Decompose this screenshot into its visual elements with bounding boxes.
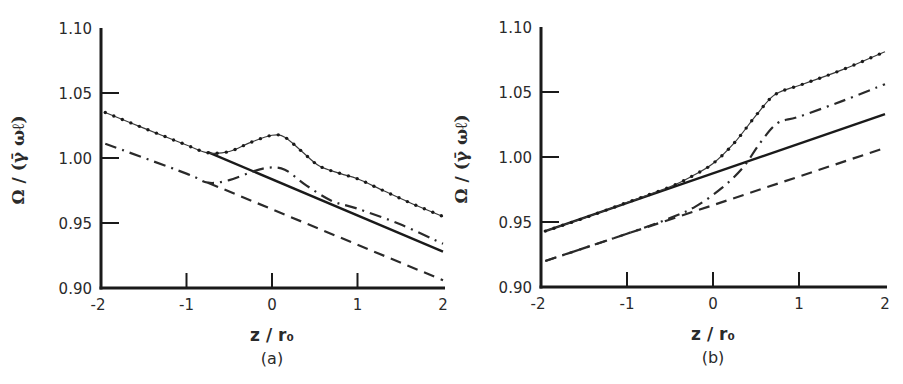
dot-marker (630, 199, 633, 202)
dot-marker (104, 111, 107, 114)
dot-marker (835, 70, 838, 73)
y-tick-label: 1.05 (499, 84, 532, 102)
y-tick-label: 1.05 (59, 85, 92, 103)
dot-marker (306, 155, 309, 158)
dot-marker (277, 133, 280, 136)
dot-marker (338, 172, 341, 175)
dot-marker (552, 227, 555, 230)
dot-marker (414, 204, 417, 207)
dot-marker (762, 105, 765, 108)
dot-marker (146, 128, 149, 131)
dot-marker (720, 154, 723, 157)
x-tick-label: -2 (91, 296, 106, 314)
dot-marker (180, 142, 183, 145)
dot-marker (138, 125, 141, 128)
dot-marker (801, 83, 804, 86)
dot-marker (768, 98, 771, 101)
dot-marker (206, 151, 209, 154)
dot-marker (665, 186, 668, 189)
dot-marker (561, 224, 564, 227)
dot-marker (613, 205, 616, 208)
dot-marker (285, 137, 288, 140)
dot-marker (596, 212, 599, 215)
x-tick-label: 1 (794, 295, 804, 313)
dot-marker (372, 184, 375, 187)
dot-marker (844, 67, 847, 70)
dot-marker (827, 73, 830, 76)
y-tick-label: 0.95 (59, 215, 92, 233)
x-tick-label: 0 (708, 295, 718, 313)
dot-marker (639, 196, 642, 199)
y-tick-label: 1.00 (59, 150, 92, 168)
dot-marker (355, 177, 358, 180)
dot-marker (389, 192, 392, 195)
dot-marker (292, 142, 295, 145)
chart-panel-b: 0.900.951.001.051.10-2-1012z / r₀(b)Ω / … (451, 0, 903, 384)
y-tick-label: 0.90 (499, 279, 532, 297)
y-axis-label: Ω / (γ̄ ωℓ) (8, 116, 28, 205)
dot-marker (155, 131, 158, 134)
dot-marker (656, 190, 659, 193)
x-tick-label: 0 (267, 296, 277, 314)
dot-marker (604, 208, 607, 211)
dot-marker (189, 145, 192, 148)
dot-marker (750, 119, 753, 122)
x-tick-label: 2 (438, 296, 448, 314)
dot-marker (121, 118, 124, 121)
x-tick-label: 2 (880, 295, 890, 313)
dot-marker (313, 161, 316, 164)
dot-marker (381, 188, 384, 191)
dot-marker (233, 148, 236, 151)
dot-marker (713, 160, 716, 163)
dot-marker (878, 52, 881, 55)
dot-marker (587, 215, 590, 218)
x-tick-label: -1 (620, 295, 635, 313)
series-dash-dot-line (105, 144, 443, 244)
dot-marker (578, 218, 581, 221)
dot-marker (129, 121, 132, 124)
series-dotted-markers (544, 52, 881, 232)
dot-marker (698, 170, 701, 173)
dot-marker (727, 148, 730, 151)
panel-caption: (a) (261, 349, 283, 368)
dot-marker (329, 169, 332, 172)
dot-marker (792, 86, 795, 89)
dot-marker (347, 174, 350, 177)
dot-marker (423, 207, 426, 210)
y-tick-label: 1.10 (59, 20, 92, 38)
dot-marker (756, 112, 759, 115)
dot-marker (299, 149, 302, 152)
dot-marker (215, 152, 218, 155)
y-tick-label: 1.00 (499, 149, 532, 167)
dot-marker (706, 166, 709, 169)
dot-marker (648, 193, 651, 196)
dot-marker (690, 175, 693, 178)
x-tick-label: -2 (531, 295, 546, 313)
dot-marker (682, 179, 685, 182)
dot-marker (818, 77, 821, 80)
dot-marker (259, 137, 262, 140)
dot-marker (440, 214, 443, 217)
dot-marker (622, 202, 625, 205)
dot-marker (320, 166, 323, 169)
dot-marker (197, 149, 200, 152)
dot-marker (744, 126, 747, 129)
chart-panel-a: 0.900.951.001.051.10-2-1012z / r₀(a)Ω / … (0, 0, 451, 384)
y-tick-label: 1.10 (499, 19, 532, 37)
series-dotted-line (105, 113, 443, 217)
y-axis-label: Ω / (γ̄ ωℓ) (451, 115, 471, 204)
dot-marker (163, 135, 166, 138)
dot-marker (397, 196, 400, 199)
x-axis-label: z / r₀ (250, 325, 294, 345)
series-dotted-line (545, 52, 885, 231)
panel-caption: (b) (702, 348, 725, 367)
dot-marker (225, 150, 228, 153)
dot-marker (783, 88, 786, 91)
dot-marker (861, 60, 864, 63)
dot-marker (250, 140, 253, 143)
dot-marker (809, 80, 812, 83)
dot-marker (406, 200, 409, 203)
dot-marker (242, 144, 245, 147)
dot-marker (733, 141, 736, 144)
dot-marker (674, 183, 677, 186)
